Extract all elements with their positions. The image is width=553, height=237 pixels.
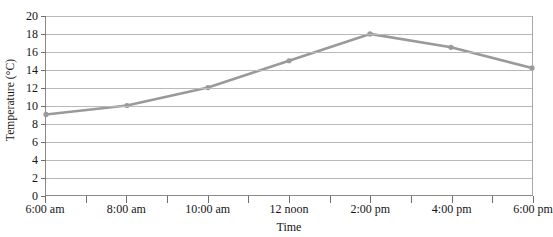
- x-axis-tick-mark: [167, 196, 168, 203]
- x-axis-tick-label: 12 noon: [270, 203, 309, 215]
- y-axis-tick-label: 12: [26, 82, 38, 94]
- x-axis-tick-labels: 6:00 am8:00 am10:00 am12 noon2:00 pm4:00…: [45, 203, 533, 221]
- x-axis-tick-mark: [492, 196, 493, 203]
- gridline: [46, 34, 532, 35]
- x-axis-tick-label: 6:00 am: [26, 203, 65, 215]
- y-axis-tick-label: 16: [26, 46, 38, 58]
- y-axis-tick-mark: [41, 106, 46, 107]
- gridline: [46, 88, 532, 89]
- y-axis-title-text: Temperature (°C): [4, 59, 16, 141]
- gridline: [46, 142, 532, 143]
- y-axis-tick-label: 6: [32, 136, 38, 148]
- gridline: [46, 160, 532, 161]
- gridline: [46, 52, 532, 53]
- gridline: [46, 70, 532, 71]
- x-axis-tick-mark: [411, 196, 412, 203]
- data-point-marker: [448, 45, 453, 50]
- y-axis-title: Temperature (°C): [0, 0, 20, 200]
- gridline: [46, 106, 532, 107]
- y-axis-tick-label: 0: [32, 190, 38, 202]
- data-point-marker: [286, 58, 291, 63]
- y-axis-tick-mark: [41, 52, 46, 53]
- y-axis-tick-mark: [41, 160, 46, 161]
- gridline: [46, 16, 532, 17]
- x-axis-tick-mark: [248, 196, 249, 203]
- temperature-line: [46, 34, 532, 115]
- x-axis-tick-label: 6:00 pm: [513, 203, 553, 215]
- x-axis-tick-label: 10:00 am: [185, 203, 230, 215]
- y-axis-tick-label: 10: [26, 100, 38, 112]
- y-axis-tick-mark: [41, 142, 46, 143]
- gridline: [46, 178, 532, 179]
- x-axis-tick-mark: [330, 196, 331, 203]
- y-axis-tick-mark: [41, 16, 46, 17]
- y-axis-tick-mark: [41, 70, 46, 71]
- y-axis-tick-mark: [41, 34, 46, 35]
- gridline: [46, 124, 532, 125]
- y-axis-tick-label: 14: [26, 64, 38, 76]
- y-axis-tick-label: 8: [32, 118, 38, 130]
- data-point-marker: [43, 112, 48, 117]
- x-axis-tick-label: 2:00 pm: [350, 203, 390, 215]
- y-axis-tick-mark: [41, 88, 46, 89]
- plot-area: [45, 16, 533, 196]
- y-axis-tick-mark: [41, 178, 46, 179]
- y-axis-tick-label: 20: [26, 10, 38, 22]
- x-axis-tick-label: 4:00 pm: [432, 203, 472, 215]
- x-axis-tick-mark: [86, 196, 87, 203]
- y-axis-tick-mark: [41, 124, 46, 125]
- y-axis-tick-label: 2: [32, 172, 38, 184]
- y-axis-tick-label: 4: [32, 154, 38, 166]
- x-axis-title: Time: [45, 220, 533, 235]
- x-axis-tick-label: 8:00 am: [107, 203, 146, 215]
- y-axis-tick-label: 18: [26, 28, 38, 40]
